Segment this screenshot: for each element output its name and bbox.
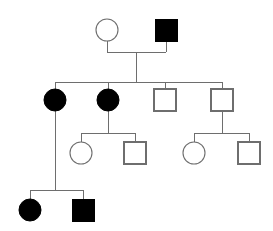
individual-II-3-male-unaffected[interactable]: [154, 89, 176, 111]
individual-IV-2-male-affected[interactable]: [72, 199, 94, 221]
individual-II-4-male-unaffected[interactable]: [211, 89, 233, 111]
individual-III-1-female-unaffected[interactable]: [70, 142, 92, 164]
individual-IV-1-female-affected[interactable]: [19, 199, 41, 221]
pedigree-canvas: [0, 0, 273, 231]
individual-III-3-female-unaffected[interactable]: [183, 142, 205, 164]
individual-II-1-female-affected[interactable]: [44, 89, 66, 111]
connector-layer: [30, 41, 249, 199]
individual-II-2-female-affected[interactable]: [97, 89, 119, 111]
individual-III-2-male-unaffected[interactable]: [124, 142, 146, 164]
pedigree-chart: [0, 0, 273, 231]
individual-I-2-male-affected[interactable]: [155, 19, 177, 41]
individual-I-1-female-unaffected[interactable]: [96, 19, 118, 41]
individual-III-4-male-unaffected[interactable]: [238, 142, 260, 164]
